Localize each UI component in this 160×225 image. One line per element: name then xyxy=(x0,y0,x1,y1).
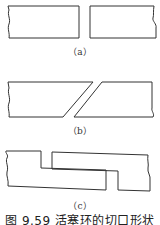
ring-end-right xyxy=(52,152,150,191)
panel-c-step-cut xyxy=(6,151,150,191)
ring-end-right xyxy=(90,6,156,38)
panel-a-straight-cut xyxy=(8,6,156,38)
ring-end-right xyxy=(74,82,154,117)
panel-b-angle-cut xyxy=(8,82,154,117)
ring-end-left xyxy=(8,82,93,117)
panel-b-label: （b） xyxy=(0,126,160,136)
panel-a-label: （a） xyxy=(0,47,160,57)
panel-c-label: （c） xyxy=(0,201,160,211)
figure-caption: 图 9.59 活塞环的切口形状 xyxy=(0,214,160,225)
ring-end-left xyxy=(8,6,79,38)
piston-ring-gap-diagram xyxy=(0,0,160,225)
